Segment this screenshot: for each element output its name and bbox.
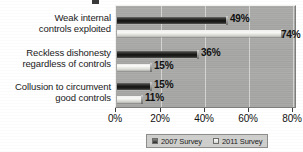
- category-label-line-2: good controls: [0, 93, 111, 104]
- gridline-80: [293, 6, 294, 107]
- legend-item-2011-survey[interactable]: 2011 Survey: [213, 137, 262, 146]
- x-axis-label-20: 20%: [143, 113, 177, 124]
- legend-label-2011-survey: 2011 Survey: [222, 137, 262, 146]
- x-axis-tick-labels: 0% 20% 40% 60% 80%: [98, 113, 303, 127]
- legend-label-2007-survey: 2007 Survey: [161, 137, 202, 146]
- legend-swatch-icon: [152, 138, 158, 144]
- legend-item-2007-survey[interactable]: 2007 Survey: [152, 137, 202, 146]
- x-tick-0: [115, 108, 116, 112]
- x-tick-60: [248, 108, 249, 112]
- category-label-line-2: controls exploited: [0, 24, 111, 35]
- category-label-reckless-dishonesty: Reckless dishonesty regardless of contro…: [0, 48, 111, 69]
- x-tick-40: [204, 108, 205, 112]
- bar-value-2007-weak-internal-controls: 49%: [230, 14, 249, 24]
- category-label-line-1: Reckless dishonesty: [0, 48, 111, 59]
- category-axis-labels: Weak internal controls exploited Reckles…: [0, 6, 113, 108]
- bar-value-2011-collusion-circumvent: 11%: [145, 93, 164, 103]
- x-axis-label-60: 60%: [231, 113, 265, 124]
- bar-value-2011-reckless-dishonesty: 15%: [154, 61, 173, 71]
- category-label-weak-internal-controls: Weak internal controls exploited: [0, 13, 111, 34]
- bar-2007-collusion-circumvent: [117, 83, 150, 90]
- bar-2007-reckless-dishonesty: [117, 51, 197, 58]
- category-label-line-2: regardless of controls: [0, 59, 111, 70]
- bar-2011-weak-internal-controls: [117, 30, 281, 37]
- bar-2011-collusion-circumvent: [117, 96, 141, 103]
- bar-value-2011-weak-internal-controls: 74%: [281, 30, 300, 40]
- legend-swatch-icon: [213, 138, 219, 144]
- category-label-line-1: Collusion to circumvent: [0, 82, 111, 93]
- x-tick-80: [292, 108, 293, 112]
- category-label-collusion-circumvent: Collusion to circumvent good controls: [0, 82, 111, 103]
- x-tick-20: [160, 108, 161, 112]
- bar-chart: Weak internal controls exploited Reckles…: [0, 0, 303, 152]
- clipped-title-glyph: [92, 0, 99, 4]
- bar-2011-reckless-dishonesty: [117, 64, 150, 71]
- bar-2007-weak-internal-controls: [117, 17, 226, 24]
- bar-value-2007-collusion-circumvent: 15%: [154, 80, 173, 90]
- category-label-line-1: Weak internal: [0, 13, 111, 24]
- chart-legend: 2007 Survey 2011 Survey: [146, 134, 268, 148]
- plot-area: 49% 36% 15% 15% 11%: [115, 5, 296, 108]
- x-axis-label-80: 80%: [275, 113, 303, 124]
- bar-value-2007-reckless-dishonesty: 36%: [201, 48, 220, 58]
- x-axis-label-0: 0%: [98, 113, 132, 124]
- x-axis-label-40: 40%: [187, 113, 221, 124]
